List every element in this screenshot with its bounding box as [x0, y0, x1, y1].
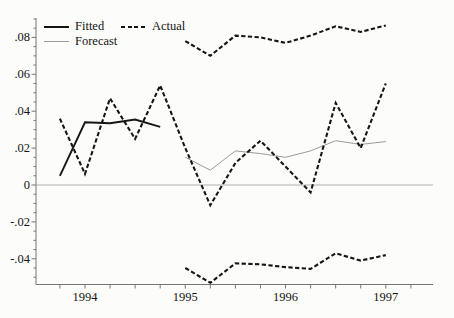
actual-line [60, 84, 386, 206]
x-axis-tick-label: 1996 [273, 290, 298, 304]
forecast-line [185, 141, 385, 171]
upper-band-line [185, 25, 385, 55]
y-axis-tick-label: -.04 [10, 252, 31, 266]
y-axis-tick-label: 0 [24, 178, 30, 192]
y-axis-tick-label: .04 [14, 104, 30, 118]
x-axis-tick-label: 1994 [72, 290, 98, 304]
x-axis-tick-label: 1995 [173, 290, 198, 304]
forecast-plot-figure: .08.06.04.020-.02-.041994199519961997 Fi… [0, 0, 454, 318]
lower-band-line [185, 253, 385, 282]
legend-row-2: Forecast [44, 34, 185, 49]
y-axis-tick-label: .06 [14, 67, 30, 81]
forecast-line-sample-icon [44, 41, 69, 42]
x-axis-tick-label: 1997 [373, 290, 398, 304]
fitted-line [60, 120, 160, 176]
chart-legend: Fitted Actual Forecast [44, 19, 185, 49]
legend-row-1: Fitted Actual [44, 19, 185, 34]
y-axis-tick-label: .02 [14, 141, 30, 155]
fitted-line-sample-icon [44, 26, 69, 28]
y-axis-tick-label: .08 [14, 30, 30, 44]
legend-label-actual: Actual [152, 19, 185, 34]
y-axis-tick-label: -.02 [10, 215, 30, 229]
legend-label-fitted: Fitted [75, 19, 121, 34]
actual-line-sample-icon [121, 26, 146, 28]
legend-label-forecast: Forecast [75, 34, 117, 49]
